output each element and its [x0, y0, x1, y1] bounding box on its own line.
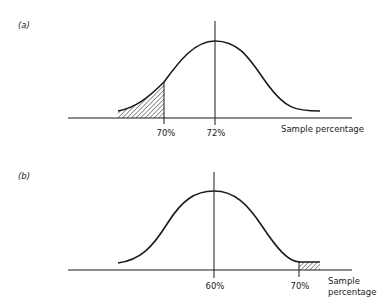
panel-a-label: (a) [18, 20, 30, 30]
panel-b-x-axis-label-line2: percentage [328, 287, 376, 297]
panel-b-shaded-right-tail [299, 262, 320, 270]
panel-b-graphic [68, 172, 352, 278]
panel-b-tick-70: 70% [291, 281, 310, 291]
panel-b-normal-curve [118, 191, 320, 263]
panel-a-tick-72: 72% [207, 128, 226, 138]
panel-b-label: (b) [18, 171, 30, 181]
panel-a-tick-70: 70% [157, 128, 176, 138]
panel-b-tick-60: 60% [206, 281, 225, 291]
panel-a-graphic [68, 21, 352, 125]
panel-a-x-axis-label: Sample percentage [281, 124, 364, 134]
figure-canvas [0, 0, 384, 307]
panel-b-x-axis-label-line1: Sample [328, 276, 360, 286]
panel-a-shaded-left-tail [118, 82, 164, 118]
